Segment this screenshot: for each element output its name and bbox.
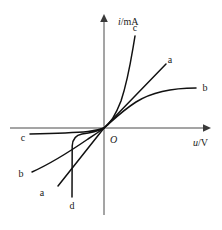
curve-label-c-upper: c bbox=[133, 22, 138, 33]
x-axis-arrowhead bbox=[203, 124, 211, 132]
curve-label-c-left: c bbox=[21, 132, 26, 143]
curve-label-d-lower: d bbox=[70, 200, 75, 211]
curve-label-a-upper: a bbox=[168, 54, 173, 65]
curve-a bbox=[58, 64, 166, 186]
curve-label-b-upper: b bbox=[203, 82, 208, 93]
curve-b bbox=[32, 88, 196, 172]
plot-canvas: i/mA u/V O c a b c b a d bbox=[0, 0, 222, 230]
curve-c bbox=[30, 36, 135, 134]
iv-characteristic-figure: i/mA u/V O c a b c b a d bbox=[0, 0, 222, 230]
curve-label-b-lower: b bbox=[19, 168, 24, 179]
x-axis-label: u/V bbox=[193, 137, 209, 148]
curve-label-a-lower: a bbox=[40, 187, 45, 198]
y-axis-arrowhead bbox=[100, 14, 108, 22]
x-axis-label-unit: /V bbox=[198, 137, 209, 148]
origin-label: O bbox=[110, 134, 117, 145]
